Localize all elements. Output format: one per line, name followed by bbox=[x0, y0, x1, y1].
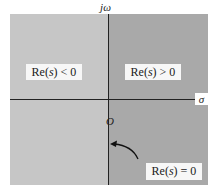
label-text: Re( bbox=[152, 164, 169, 178]
label-text: ) = 0 bbox=[174, 164, 197, 178]
left-half-label: Re(s) < 0 bbox=[26, 64, 82, 80]
label-text: Re( bbox=[32, 65, 49, 79]
jw-axis-label: jω bbox=[99, 1, 112, 14]
real-axis bbox=[10, 99, 208, 100]
arrow-icon bbox=[108, 136, 143, 161]
imaginary-axis-label: Re(s) = 0 bbox=[146, 163, 202, 180]
label-text: ) > 0 bbox=[153, 65, 176, 79]
right-half-label: Re(s) > 0 bbox=[125, 64, 181, 80]
sigma-axis-label: σ bbox=[195, 93, 208, 105]
label-text: Re( bbox=[131, 65, 148, 79]
label-text: ) < 0 bbox=[54, 65, 77, 79]
origin-label: O bbox=[106, 115, 114, 127]
